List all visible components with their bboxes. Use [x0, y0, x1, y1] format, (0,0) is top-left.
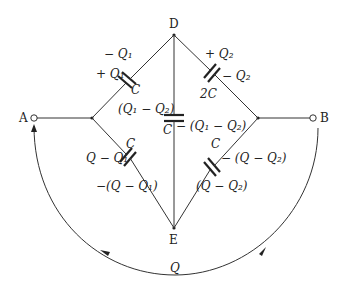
wire-ad-2: [130, 35, 174, 79]
wire-ae-2: [130, 158, 174, 228]
arrow-icon: [259, 247, 266, 256]
capacitor-eb-charge-top: − (Q − Q₂): [221, 152, 286, 164]
capacitor-db-charge-far: − Q₂: [222, 70, 251, 82]
terminal-b: [310, 115, 316, 121]
return-path-label: Q: [170, 262, 180, 274]
arrow-icon: [100, 250, 110, 256]
capacitor-ad-charge-far: − Q₁: [104, 48, 133, 60]
capacitor-ae-value: C: [126, 138, 135, 150]
capacitor-ae-charge-bottom: −(Q − Q₁): [96, 180, 158, 192]
terminal-a: [31, 115, 37, 121]
wire-ae-1: [92, 118, 126, 154]
capacitor-db-charge-near: + Q₂: [205, 48, 234, 60]
capacitor-eb-value: C: [211, 138, 220, 150]
capacitor-de-charge-top: (Q₁ − Q₂): [118, 103, 174, 115]
capacitor-de-charge-bottom: − (Q₁ − Q₂): [176, 120, 246, 132]
capacitor-db-value: 2C: [200, 88, 217, 100]
arrow-icon: [31, 124, 37, 132]
capacitor-ad-charge-near: + Q₁: [96, 68, 125, 80]
capacitor-eb-charge-bottom: (Q − Q₂): [196, 180, 248, 192]
capacitor-ae-charge-top: Q − Q₁: [86, 152, 128, 164]
capacitor-de-value: C: [163, 124, 172, 136]
node-label-b: B: [320, 112, 329, 124]
node-label-a: A: [19, 112, 28, 124]
node-label-d: D: [169, 18, 179, 30]
node-label-e: E: [169, 234, 178, 246]
capacitor-ad-value: C: [131, 84, 140, 96]
return-path-arc: [34, 126, 318, 275]
